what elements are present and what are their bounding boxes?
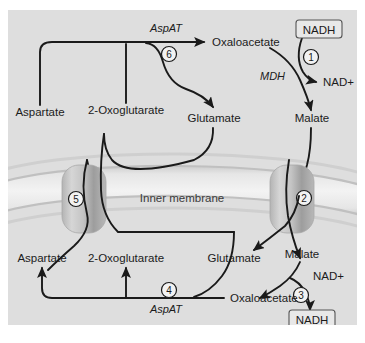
shuttle-diagram: Inner membrane 5: [8, 10, 357, 325]
mdh-upper-label: MDH: [260, 70, 285, 82]
figure-panel: Inner membrane 5: [8, 10, 357, 325]
malate-upper-label: Malate: [295, 112, 330, 124]
nadh-lower-label: NADH: [296, 314, 329, 326]
glutamate-upper-label: Glutamate: [187, 112, 240, 124]
transporter-right[interactable]: 2: [270, 165, 314, 233]
arrow-oxaloacetate-to-aspartate-lower: [42, 268, 224, 298]
2-oxoglutarate-upper-label: 2-Oxoglutarate: [88, 104, 164, 116]
nad-plus-upper-label: NAD+: [323, 76, 354, 88]
malate-lower-label: Malate: [285, 248, 320, 260]
nadh-upper-label: NADH: [303, 24, 336, 36]
arrow-glutamate-to-oxaloacetate-lower: [194, 232, 234, 297]
arrow-glutamate-down-upper: [104, 128, 213, 169]
aspat-upper-label: AspAT: [149, 22, 183, 34]
aspartate-upper-label: Aspartate: [15, 106, 64, 118]
step-1-label: 1: [308, 52, 314, 63]
aspat-lower-label: AspAT: [149, 303, 183, 315]
step-2-label: 2: [301, 193, 307, 204]
oxaloacetate-lower-label: Oxaloacetate: [230, 292, 298, 304]
oxaloacetate-upper-label: Oxaloacetate: [212, 36, 280, 48]
step-3-label: 3: [298, 290, 304, 301]
step-5-label: 5: [73, 194, 79, 205]
step-4-label: 4: [166, 285, 172, 296]
step-6-label: 6: [166, 49, 172, 60]
lower-labels: Aspartate 2-Oxoglutarate Glutamate Malat…: [17, 248, 344, 325]
nadh-upper-box: NADH: [296, 20, 342, 38]
glutamate-lower-label: Glutamate: [207, 252, 260, 264]
inner-membrane-label: Inner membrane: [140, 192, 224, 204]
2-oxoglutarate-lower-label: 2-Oxoglutarate: [88, 252, 164, 264]
arrow-to-glutamate-upper: [146, 43, 213, 107]
arrow-aspartate-to-oxaloacetate-upper: [40, 42, 204, 105]
nadh-lower-box: NADH: [289, 310, 335, 325]
nad-plus-lower-label: NAD+: [313, 270, 344, 282]
aspartate-lower-label: Aspartate: [17, 252, 66, 264]
